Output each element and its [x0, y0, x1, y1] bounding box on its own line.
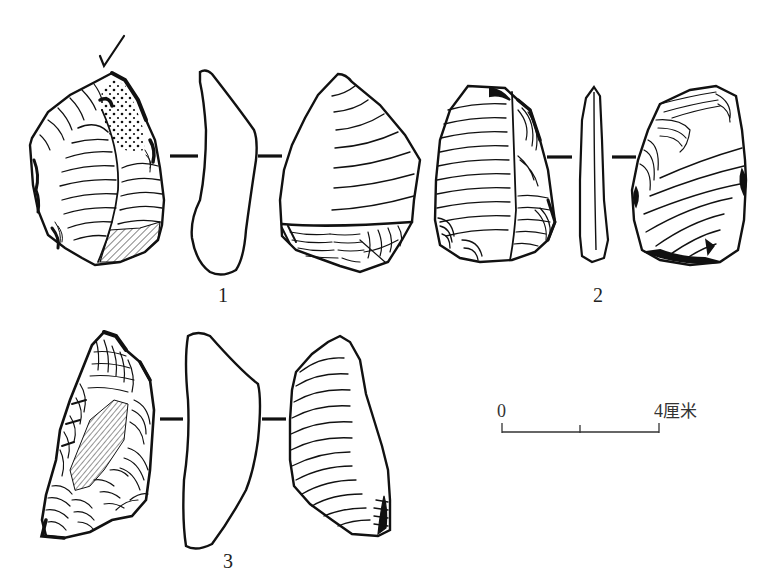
scale-unit: 厘米	[663, 401, 697, 421]
artifact-3-label: 3	[223, 550, 233, 572]
scale-start-label: 0	[497, 402, 506, 420]
artifact-2-dorsal-face	[435, 86, 555, 262]
artifact-3-side-profile	[183, 333, 260, 549]
artifact-3-ventral-face	[290, 336, 390, 536]
artifact-2-ventral-face	[632, 86, 746, 265]
striking-direction-arrow-icon	[100, 36, 124, 66]
artifact-3-dorsal-face	[42, 332, 154, 538]
artifact-2: 2	[435, 86, 746, 306]
scale-end-label: 4厘米	[654, 402, 697, 420]
artifact-1-side-profile	[192, 70, 257, 274]
scale-end-value: 4	[654, 401, 663, 421]
artifact-1-label: 1	[218, 284, 228, 306]
artifact-2-side-profile	[580, 87, 608, 262]
artifact-1-ventral-face	[280, 74, 420, 272]
scale-bar	[502, 423, 659, 433]
stone-tool-figure: 1	[0, 0, 763, 585]
artifact-drawings: 1	[0, 0, 763, 585]
artifact-3: 3	[42, 332, 390, 572]
artifact-2-label: 2	[593, 284, 603, 306]
artifact-1-dorsal-face	[30, 73, 164, 265]
artifact-1: 1	[30, 36, 420, 306]
